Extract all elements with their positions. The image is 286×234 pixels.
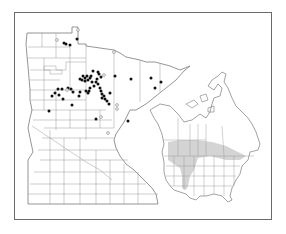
specimen-dot (160, 81, 163, 84)
specimen-dot (84, 80, 87, 83)
specimen-dot (100, 76, 103, 79)
open-record-dot (100, 116, 103, 119)
specimen-dot (150, 77, 153, 80)
specimen-dot (91, 81, 94, 84)
specimen-dot (154, 87, 157, 90)
specimen-dot (96, 78, 99, 81)
range-shading (168, 140, 246, 190)
specimen-dot (87, 79, 90, 82)
north-america-inset (150, 72, 260, 202)
specimen-dot (54, 92, 57, 95)
specimen-dot (69, 44, 72, 47)
specimen-dot (70, 88, 73, 91)
specimen-dot (109, 92, 112, 95)
specimen-dot (78, 95, 81, 98)
specimen-dot (108, 103, 111, 106)
specimen-dot (72, 91, 75, 94)
specimen-dot (57, 88, 60, 91)
specimen-dot (61, 88, 64, 91)
specimen-dot (99, 87, 102, 90)
specimen-dot (100, 90, 103, 93)
specimen-dot (48, 110, 51, 113)
specimen-dot (127, 120, 130, 123)
county-boundaries (28, 33, 160, 204)
specimen-dot (130, 78, 133, 81)
open-record-dot (113, 51, 116, 54)
specimen-dot (62, 98, 65, 101)
specimen-dot (92, 70, 95, 73)
open-record-dot (66, 89, 69, 92)
open-record-dot (56, 39, 59, 42)
open-record-dot (107, 132, 110, 135)
open-record-dot (103, 74, 106, 77)
specimen-dot (90, 75, 93, 78)
specimen-dot (89, 87, 92, 90)
specimen-dot (114, 75, 117, 78)
specimen-dot (95, 118, 98, 121)
specimen-dot (93, 85, 96, 88)
specimen-dot (79, 78, 82, 81)
specimen-dot (98, 73, 101, 76)
specimen-dot (85, 90, 88, 93)
specimen-dot (65, 43, 68, 46)
specimen-dot (58, 94, 61, 97)
open-record-dot (77, 29, 80, 32)
distribution-map (0, 0, 286, 234)
specimen-dot (101, 97, 104, 100)
specimen-dot (97, 83, 100, 86)
open-record-dot (116, 108, 119, 111)
specimen-dot (79, 91, 82, 94)
open-record-dot (116, 104, 119, 107)
specimen-dot (106, 100, 109, 103)
specimen-dot (71, 104, 74, 107)
specimen-dot (76, 38, 79, 41)
specimen-dot (82, 75, 85, 78)
specimen-dot (51, 95, 54, 98)
